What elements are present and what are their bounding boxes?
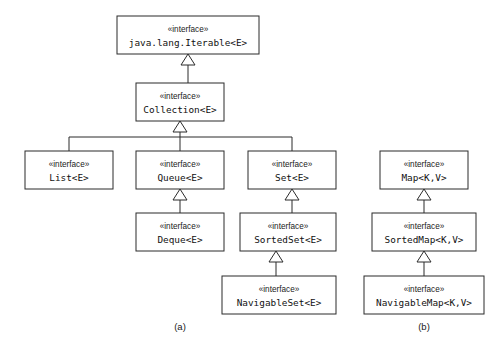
generalization-arrowhead bbox=[285, 189, 299, 200]
caption-b: (b) bbox=[418, 321, 430, 332]
box-outline bbox=[380, 151, 468, 189]
uml-class-box-list[interactable]: «interface»List<E> bbox=[25, 151, 113, 189]
box-outline bbox=[364, 276, 484, 314]
generalization-arrowhead bbox=[181, 54, 195, 65]
box-outline bbox=[136, 213, 224, 251]
interface-name: Set<E> bbox=[275, 172, 309, 183]
uml-class-box-navigableset[interactable]: «interface»NavigableSet<E> bbox=[222, 276, 336, 314]
generalization-arrowhead bbox=[269, 251, 283, 262]
stereotype-label: «interface» bbox=[404, 285, 445, 294]
uml-class-box-map[interactable]: «interface»Map<K,V> bbox=[380, 151, 468, 189]
edge-sortedmap-map bbox=[417, 189, 431, 213]
uml-class-box-navigablemap[interactable]: «interface»NavigableMap<K,V> bbox=[364, 276, 484, 314]
interface-name: NavigableMap<K,V> bbox=[376, 297, 472, 308]
interface-name: List<E> bbox=[49, 172, 89, 183]
uml-diagram: «interface»java.lang.Iterable<E>«interfa… bbox=[0, 0, 498, 346]
uml-class-box-set[interactable]: «interface»Set<E> bbox=[248, 151, 336, 189]
edge-navigablemap-sortedmap bbox=[417, 251, 431, 276]
edge-children-collection bbox=[69, 121, 292, 151]
interface-name: Deque<E> bbox=[157, 234, 203, 245]
interface-name: Queue<E> bbox=[157, 172, 203, 183]
box-outline bbox=[372, 213, 476, 251]
edge-navigableset-sortedset bbox=[269, 251, 283, 276]
interface-name: SortedMap<K,V> bbox=[384, 234, 463, 245]
box-outline bbox=[136, 151, 224, 189]
box-outline bbox=[25, 151, 113, 189]
stereotype-label: «interface» bbox=[404, 160, 445, 169]
box-outline bbox=[117, 16, 259, 54]
stereotype-label: «interface» bbox=[268, 222, 309, 231]
captions-layer: (a)(b) bbox=[174, 321, 430, 332]
uml-diagram-canvas: «interface»java.lang.Iterable<E>«interfa… bbox=[0, 0, 498, 346]
caption-a: (a) bbox=[174, 321, 186, 332]
uml-class-box-iterable[interactable]: «interface»java.lang.Iterable<E> bbox=[117, 16, 259, 54]
stereotype-label: «interface» bbox=[404, 222, 445, 231]
interface-name: SortedSet<E> bbox=[254, 234, 322, 245]
uml-class-box-deque[interactable]: «interface»Deque<E> bbox=[136, 213, 224, 251]
uml-class-box-queue[interactable]: «interface»Queue<E> bbox=[136, 151, 224, 189]
edge-collection-iterable bbox=[181, 54, 195, 83]
interface-name: NavigableSet<E> bbox=[237, 297, 322, 308]
interface-name: java.lang.Iterable<E> bbox=[129, 37, 248, 48]
edge-deque-queue bbox=[173, 189, 187, 213]
box-outline bbox=[222, 276, 336, 314]
stereotype-label: «interface» bbox=[259, 285, 300, 294]
uml-class-box-sortedset[interactable]: «interface»SortedSet<E> bbox=[240, 213, 336, 251]
box-outline bbox=[248, 151, 336, 189]
uml-class-box-collection[interactable]: «interface»Collection<E> bbox=[136, 83, 224, 121]
generalization-arrowhead bbox=[173, 121, 187, 132]
generalization-arrowhead bbox=[417, 189, 431, 200]
interface-name: Map<K,V> bbox=[401, 172, 447, 183]
uml-class-box-sortedmap[interactable]: «interface»SortedMap<K,V> bbox=[372, 213, 476, 251]
box-outline bbox=[136, 83, 224, 121]
stereotype-label: «interface» bbox=[272, 160, 313, 169]
stereotype-label: «interface» bbox=[160, 222, 201, 231]
stereotype-label: «interface» bbox=[160, 92, 201, 101]
stereotype-label: «interface» bbox=[49, 160, 90, 169]
generalization-arrowhead bbox=[173, 189, 187, 200]
stereotype-label: «interface» bbox=[168, 25, 209, 34]
edge-sortedset-set bbox=[285, 189, 299, 213]
nodes-layer: «interface»java.lang.Iterable<E>«interfa… bbox=[25, 16, 484, 314]
stereotype-label: «interface» bbox=[160, 160, 201, 169]
generalization-arrowhead bbox=[417, 251, 431, 262]
interface-name: Collection<E> bbox=[143, 104, 217, 115]
box-outline bbox=[240, 213, 336, 251]
